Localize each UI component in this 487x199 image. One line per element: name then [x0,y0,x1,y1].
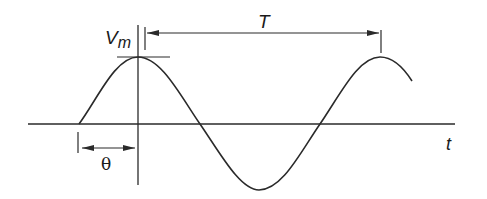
period-label: T [258,11,271,32]
time-axis-label: t [446,134,452,154]
sine-wave-diagram: Vm T θ t [0,0,487,199]
amplitude-label: Vm [105,27,131,51]
phase-label: θ [101,154,111,174]
